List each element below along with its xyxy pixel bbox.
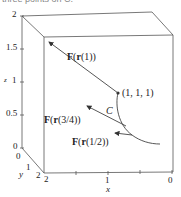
y-tick-2: 2 [36,171,41,180]
curve-c [117,93,160,144]
point-label: (1, 1, 1) [122,88,154,98]
curve-label: C [106,106,113,116]
x-axis-label: x [106,185,110,194]
x-tick-2: 2 [44,175,49,184]
z-axis-label: z [4,77,7,84]
label-F-r-1: F(r(1)) [67,52,96,62]
label-F-r-3-4: F(r(3/4)) [44,115,81,125]
y-tick-0: 0 [16,152,21,161]
z-tick-2: 2 [12,10,17,19]
vector-arrow-1 [49,42,118,93]
y-axis-label: y [19,170,23,179]
z-tick-0-5: 0.5 [6,109,17,118]
z-tick-1: 1 [12,76,17,85]
z-tick-0: 0 [13,142,18,151]
y-tick-1: 1 [26,163,31,172]
z-tick-1-5: 1.5 [6,43,17,52]
label-F-r-1-2: F(r(1/2)) [72,137,109,147]
x-tick-0: 0 [168,176,173,185]
